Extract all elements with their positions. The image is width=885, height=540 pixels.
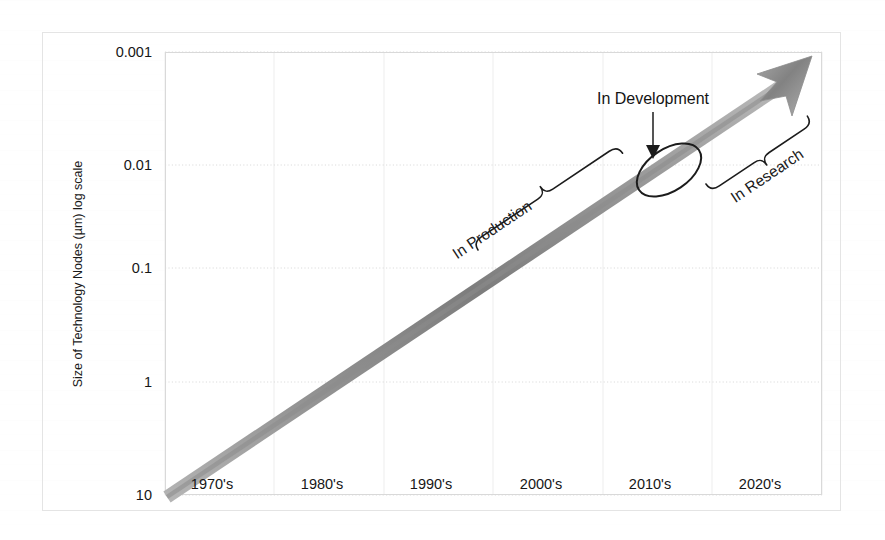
x-tick-label-2: 1990's xyxy=(410,476,452,492)
x-tick-label-5: 2020's xyxy=(739,476,781,492)
x-tick-label-3: 2000's xyxy=(520,476,562,492)
y-tick-label-4: 10 xyxy=(136,487,152,503)
y-axis-title: Size of Technology Nodes (µm) log scale xyxy=(71,161,85,388)
chart-figure: 0.001 0.01 0.1 1 10 Size of Technology N… xyxy=(0,0,885,540)
x-tick-label-4: 2010's xyxy=(629,476,671,492)
x-tick-label-1: 1980's xyxy=(301,476,343,492)
y-tick-label-3: 1 xyxy=(144,374,152,390)
in-development-label: In Development xyxy=(597,90,710,107)
y-tick-label-1: 0.01 xyxy=(124,157,152,173)
y-tick-label-0: 0.001 xyxy=(116,44,152,60)
y-tick-label-2: 0.1 xyxy=(132,260,152,276)
x-tick-label-0: 1970's xyxy=(191,476,233,492)
